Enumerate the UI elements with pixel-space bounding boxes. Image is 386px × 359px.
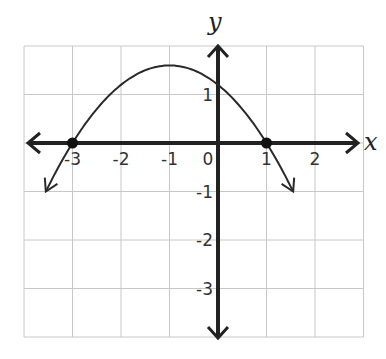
x-tick-labels: -3-2-1012 bbox=[64, 149, 320, 169]
coordinate-plane: x y -3-2-1012 1-1-2-3 bbox=[0, 0, 386, 359]
y-tick-labels: 1-1-2-3 bbox=[196, 85, 213, 299]
x-tick-label: 2 bbox=[310, 149, 321, 169]
x-tick-label: 0 bbox=[203, 149, 214, 169]
x-intercept-point bbox=[67, 138, 78, 149]
x-tick-label: 1 bbox=[261, 149, 272, 169]
x-intercept-point bbox=[261, 138, 272, 149]
y-tick-label: 1 bbox=[202, 85, 213, 105]
x-axis-label: x bbox=[364, 128, 378, 156]
y-tick-label: -2 bbox=[196, 230, 213, 250]
grid bbox=[24, 46, 364, 337]
x-tick-label: -1 bbox=[161, 149, 178, 169]
x-tick-label: -2 bbox=[113, 149, 130, 169]
y-tick-label: -3 bbox=[196, 279, 213, 299]
y-axis-label: y bbox=[207, 8, 222, 36]
y-tick-label: -1 bbox=[196, 182, 213, 202]
